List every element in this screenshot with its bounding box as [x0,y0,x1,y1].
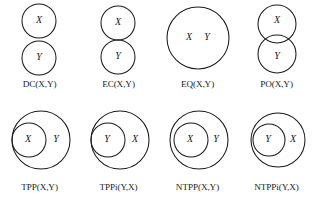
panel-tpp: XYTPP(X,Y) [0,103,79,206]
label-y: Y [36,51,43,62]
circle-outer-x [91,111,149,169]
caption-dc: DC(X,Y) [0,79,79,89]
diagram-eq: XY [158,0,237,80]
svg-dc: XY [0,0,79,80]
label-x: X [273,14,281,25]
caption-tpp: TPP(X,Y) [0,182,79,192]
svg-ntpp: XY [158,103,237,183]
label-x: X [289,133,297,144]
panel-dc: XYDC(X,Y) [0,0,79,103]
label-x: X [185,31,193,42]
circle-outer-y [12,111,70,169]
rcc8-relations-figure: XYDC(X,Y)XYEC(X,Y)XYEQ(X,Y)XYPO(X,Y)XYTP… [0,0,316,206]
diagram-ntpp: XY [158,103,237,183]
svg-tppi: YX [79,103,158,183]
diagram-dc: XY [0,0,79,80]
diagram-po: XY [237,0,316,80]
svg-tpp: XY [0,103,79,183]
circle-outer-x [251,113,305,167]
diagram-tppi: YX [79,103,158,183]
label-x: X [24,133,32,144]
label-y: Y [104,133,111,144]
diagram-tpp: XY [0,103,79,183]
panel-ec: XYEC(X,Y) [79,0,158,103]
svg-ntppi: YX [237,103,316,183]
svg-ec: XY [79,0,158,80]
svg-po: XY [237,0,316,80]
caption-tppi: TPPi(Y,X) [79,182,158,192]
panel-po: XYPO(X,Y) [237,0,316,103]
panel-ntpp: XYNTPP(X,Y) [158,103,237,206]
label-x: X [114,16,122,27]
label-y: Y [53,133,60,144]
label-y: Y [213,133,220,144]
label-x: X [186,133,194,144]
diagram-ntppi: YX [237,103,316,183]
caption-eq: EQ(X,Y) [158,79,237,89]
panel-ntppi: YXNTPPi(Y,X) [237,103,316,206]
label-x: X [131,133,139,144]
circle-xy [167,7,229,69]
circle-outer-y [170,111,228,169]
panel-tppi: YXTPPi(Y,X) [79,103,158,206]
caption-ntpp: NTPP(X,Y) [158,182,237,192]
label-y: Y [204,31,211,42]
caption-po: PO(X,Y) [237,79,316,89]
label-y: Y [115,50,122,61]
panel-eq: XYEQ(X,Y) [158,0,237,103]
label-y: Y [274,50,281,61]
caption-ec: EC(X,Y) [79,79,158,89]
label-x: X [35,14,43,25]
diagram-ec: XY [79,0,158,80]
svg-eq: XY [158,0,237,80]
caption-ntppi: NTPPi(Y,X) [237,182,316,192]
label-y: Y [265,133,272,144]
